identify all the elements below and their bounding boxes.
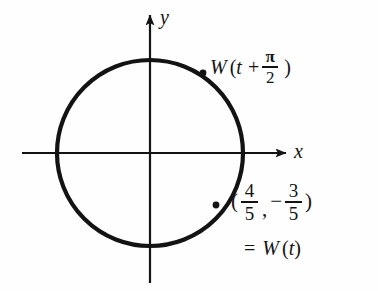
fraction-denominator: 5 [286, 204, 302, 223]
y-axis-label: y [160, 6, 169, 29]
fraction-three-fifths: 3 5 [285, 181, 302, 223]
open-paren: ( [282, 238, 289, 258]
label-w-t-plus-half-pi: W ( t + π 2 ) [210, 48, 291, 86]
label-coordinate-pair: ( 4 5 , − 3 5 ) [231, 181, 312, 223]
unit-circle-figure: y x W ( t + π 2 ) ( 4 5 , − 3 5 ) [0, 0, 378, 291]
open-paren: ( [231, 191, 238, 212]
fraction-four-fifths: 4 5 [241, 181, 258, 223]
w-function-symbol: W [210, 57, 227, 77]
point-w-t [213, 202, 220, 209]
variable-t: t [236, 57, 242, 77]
fraction-denominator: 5 [242, 204, 258, 223]
w-function-symbol: W [262, 238, 279, 258]
close-paren: ) [284, 57, 291, 77]
comma-separator: , [262, 199, 267, 223]
equals-sign: = [244, 238, 255, 258]
close-paren: ) [294, 238, 301, 258]
fraction-denominator: 2 [263, 69, 278, 86]
point-w-t-plus-half-pi [200, 70, 207, 77]
fraction-numerator: 3 [286, 181, 302, 200]
fraction-numerator: π [263, 48, 278, 65]
figure-canvas [0, 0, 378, 291]
fraction-numerator: 4 [242, 181, 258, 200]
plus-operator: + [248, 57, 259, 77]
open-paren: ( [230, 57, 237, 77]
label-equals-w-t: = W ( t ) [244, 238, 301, 258]
x-axis-label: x [294, 140, 303, 163]
close-paren: ) [305, 191, 312, 212]
minus-sign: − [270, 191, 282, 212]
fraction-pi-over-2: π 2 [262, 48, 278, 86]
